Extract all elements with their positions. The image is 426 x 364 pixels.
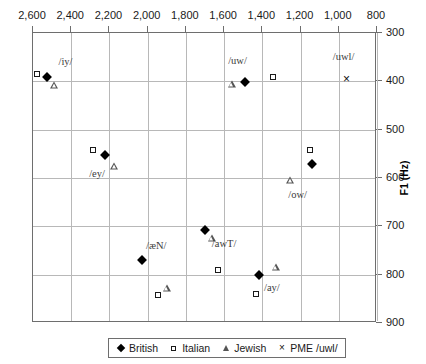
- triangle-marker-icon: [163, 284, 171, 291]
- triangle-marker-icon: [286, 177, 294, 184]
- plot-area: × /iy//ey//uw//uwl//ow//æN//awT//ay/: [32, 32, 376, 322]
- vertical-gridline: [377, 33, 378, 321]
- diamond-marker-icon-shape: [116, 344, 124, 352]
- square-marker-icon: [307, 147, 313, 153]
- vowel-annotation-label: /ay/: [264, 281, 280, 292]
- y-tick-label: 500: [386, 123, 404, 135]
- y-tick-label: 900: [386, 316, 404, 328]
- y-tick-label: 300: [386, 26, 404, 38]
- vertical-gridline: [301, 33, 302, 321]
- vowel-annotation-label: /iy/: [58, 56, 72, 67]
- diamond-marker-icon: [100, 150, 110, 160]
- square-marker-icon: [90, 147, 96, 153]
- y-tick-label: 700: [386, 219, 404, 231]
- vowel-annotation-label: /uw/: [228, 54, 247, 65]
- square-marker-icon: [34, 71, 40, 77]
- vertical-gridline: [109, 33, 110, 321]
- triangle-marker-fill: [273, 266, 277, 270]
- legend-item-label: British: [129, 342, 158, 354]
- vertical-gridline: [71, 33, 72, 321]
- horizontal-gridline: [33, 81, 375, 82]
- triangle-marker-fill: [52, 84, 56, 88]
- x-tick-label: 800: [367, 9, 385, 21]
- y-tick-mark: [376, 322, 382, 323]
- square-marker-icon: [215, 267, 221, 273]
- y-tick-label: 800: [386, 268, 404, 280]
- triangle-marker-icon: [50, 82, 58, 89]
- square-marker-icon: [155, 292, 161, 298]
- x-tick-label: 1,200: [286, 9, 314, 21]
- triangle-marker-fill: [229, 82, 233, 86]
- legend-item-label: Italian: [182, 342, 210, 354]
- triangle-marker-icon: [228, 80, 236, 87]
- x-tick-label: 1,400: [248, 9, 276, 21]
- x-tick-label: 2,200: [95, 9, 123, 21]
- diamond-marker-icon: [116, 344, 125, 353]
- vertical-gridline: [262, 33, 263, 321]
- vowel-annotation-label: /ey/: [89, 168, 105, 179]
- square-marker-icon-shape: [171, 346, 176, 351]
- triangle-marker-fill: [288, 179, 292, 183]
- vertical-gridline: [186, 33, 187, 321]
- vowel-annotation-label: /uwl/: [333, 51, 355, 62]
- legend-item[interactable]: Italian: [169, 342, 210, 354]
- cross-marker-icon: ×: [343, 73, 350, 85]
- diamond-marker-icon: [137, 255, 147, 265]
- x-tick-label: 1,600: [209, 9, 237, 21]
- x-tick-label: 2,600: [18, 9, 46, 21]
- triangle-marker-fill: [164, 286, 168, 290]
- vertical-gridline: [339, 33, 340, 321]
- vowel-annotation-label: /ow/: [288, 188, 307, 199]
- triangle-marker-fill: [112, 164, 116, 168]
- legend-item-label: Jewish: [234, 342, 266, 354]
- triangle-marker-icon: [221, 344, 230, 353]
- horizontal-gridline: [33, 178, 375, 179]
- vowel-annotation-label: /awT/: [212, 238, 237, 249]
- legend-item[interactable]: ×PME /uwl/: [277, 342, 337, 354]
- vowel-formant-scatter-chart: 2,6002,4002,2002,0001,8001,6001,4001,200…: [0, 0, 426, 364]
- legend-item-label: PME /uwl/: [290, 342, 337, 354]
- square-marker-icon: [270, 74, 276, 80]
- x-tick-label: 1,800: [171, 9, 199, 21]
- cross-marker-icon: ×: [277, 344, 286, 353]
- square-marker-icon: [169, 344, 178, 353]
- triangle-marker-icon-shape: [223, 345, 229, 351]
- triangle-marker-icon: [272, 264, 280, 271]
- triangle-marker-icon: [110, 162, 118, 169]
- square-marker-icon: [253, 291, 259, 297]
- diamond-marker-icon: [240, 77, 250, 87]
- horizontal-gridline: [33, 275, 375, 276]
- vertical-gridline: [148, 33, 149, 321]
- y-axis-title: F1 (Hz): [398, 161, 410, 196]
- chart-legend: BritishItalianJewish×PME /uwl/: [108, 338, 346, 358]
- vowel-annotation-label: /æN/: [146, 239, 166, 250]
- legend-item[interactable]: Jewish: [221, 342, 266, 354]
- x-tick-label: 2,000: [133, 9, 161, 21]
- horizontal-gridline: [33, 130, 375, 131]
- legend-item[interactable]: British: [116, 342, 158, 354]
- x-tick-label: 1,000: [324, 9, 352, 21]
- vertical-gridline: [224, 33, 225, 321]
- diamond-marker-icon: [307, 159, 317, 169]
- y-tick-label: 400: [386, 74, 404, 86]
- x-tick-label: 2,400: [56, 9, 84, 21]
